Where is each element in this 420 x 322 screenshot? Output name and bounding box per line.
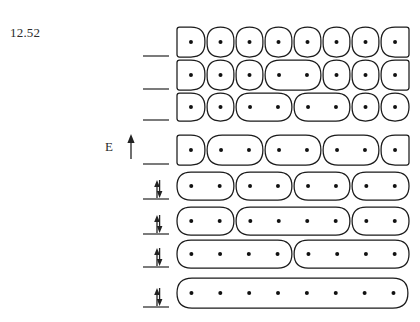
electron-dot bbox=[334, 184, 338, 188]
electron-dot bbox=[219, 148, 223, 152]
electron-dot bbox=[218, 291, 222, 295]
level-row bbox=[143, 240, 409, 268]
electron-dot bbox=[219, 105, 223, 109]
electron-dot bbox=[334, 219, 338, 223]
electron-dot bbox=[363, 148, 367, 152]
electron-dot bbox=[218, 219, 222, 223]
electron-dot bbox=[189, 219, 193, 223]
level-row bbox=[143, 93, 409, 121]
well-cell bbox=[352, 207, 409, 235]
electron-dot bbox=[334, 291, 338, 295]
well-cell bbox=[207, 135, 263, 165]
electron-dot bbox=[218, 252, 222, 256]
electron-dot bbox=[189, 184, 193, 188]
electron-dot bbox=[306, 184, 310, 188]
well-cell bbox=[352, 172, 409, 200]
well-cell bbox=[294, 240, 409, 268]
electron-dot bbox=[364, 40, 368, 44]
electron-dot bbox=[393, 252, 397, 256]
level-row bbox=[143, 27, 409, 57]
electron-dot bbox=[248, 219, 252, 223]
well-cell bbox=[323, 135, 379, 165]
electron-dot bbox=[364, 252, 368, 256]
well-cell bbox=[236, 172, 292, 200]
electron-dot bbox=[363, 291, 367, 295]
well-cell bbox=[236, 93, 292, 121]
electron-dot bbox=[364, 73, 368, 77]
electron-dot bbox=[335, 40, 339, 44]
spin-pair-double-arrow-icon bbox=[143, 248, 169, 267]
electron-dot bbox=[248, 184, 252, 188]
well-cell bbox=[177, 207, 234, 235]
electron-dot bbox=[248, 105, 252, 109]
electron-dot bbox=[393, 40, 397, 44]
electron-dot bbox=[277, 148, 281, 152]
spin-pair-double-arrow-icon bbox=[143, 215, 169, 234]
electron-dot bbox=[276, 184, 280, 188]
electron-dot bbox=[189, 105, 193, 109]
electron-dot bbox=[393, 184, 397, 188]
electron-dot bbox=[276, 252, 280, 256]
well-cell bbox=[236, 207, 350, 235]
electron-dot bbox=[306, 105, 310, 109]
electron-dot bbox=[277, 73, 281, 77]
electron-dot bbox=[305, 219, 309, 223]
electron-dot bbox=[393, 73, 397, 77]
figure-root: 12.52 E bbox=[0, 0, 420, 322]
level-row bbox=[143, 60, 409, 90]
electron-dot bbox=[305, 73, 309, 77]
well-cell bbox=[294, 172, 350, 200]
electron-dot bbox=[393, 105, 397, 109]
electron-dot bbox=[276, 105, 280, 109]
electron-dot bbox=[189, 252, 193, 256]
electron-dot bbox=[306, 252, 310, 256]
energy-level-diagram bbox=[0, 0, 420, 322]
electron-dot bbox=[335, 252, 339, 256]
electron-dot bbox=[247, 148, 251, 152]
electron-dot bbox=[277, 219, 281, 223]
electron-dot bbox=[305, 291, 309, 295]
electron-dot bbox=[247, 291, 251, 295]
energy-up-arrow-icon bbox=[127, 134, 134, 159]
level-row bbox=[143, 207, 409, 235]
electron-dot bbox=[277, 40, 281, 44]
electron-dot bbox=[391, 291, 395, 295]
electron-dot bbox=[248, 73, 252, 77]
rows-group bbox=[143, 27, 409, 308]
electron-dot bbox=[218, 184, 222, 188]
electron-dot bbox=[189, 291, 193, 295]
electron-dot bbox=[189, 40, 193, 44]
well-cell bbox=[177, 240, 292, 268]
electron-dot bbox=[334, 105, 338, 109]
spin-pair-double-arrow-icon bbox=[143, 288, 169, 307]
electron-dot bbox=[305, 148, 309, 152]
electron-dot bbox=[189, 73, 193, 77]
electron-dot bbox=[306, 40, 310, 44]
electron-dot bbox=[393, 148, 397, 152]
electron-dot bbox=[364, 184, 368, 188]
well-cell bbox=[177, 278, 408, 308]
electron-dot bbox=[248, 40, 252, 44]
level-row bbox=[143, 135, 409, 165]
well-cell bbox=[177, 172, 234, 200]
electron-dot bbox=[276, 291, 280, 295]
electron-dot bbox=[364, 219, 368, 223]
well-cell bbox=[265, 135, 321, 165]
electron-dot bbox=[189, 148, 193, 152]
electron-dot bbox=[393, 219, 397, 223]
electron-dot bbox=[335, 73, 339, 77]
spin-pair-double-arrow-icon bbox=[143, 180, 169, 199]
electron-dot bbox=[335, 148, 339, 152]
electron-dot bbox=[247, 252, 251, 256]
well-cell bbox=[265, 60, 321, 90]
well-cell bbox=[294, 93, 350, 121]
electron-dot bbox=[219, 40, 223, 44]
electron-dot bbox=[364, 105, 368, 109]
electron-dot bbox=[219, 73, 223, 77]
level-row bbox=[143, 172, 409, 200]
level-row bbox=[143, 278, 408, 308]
